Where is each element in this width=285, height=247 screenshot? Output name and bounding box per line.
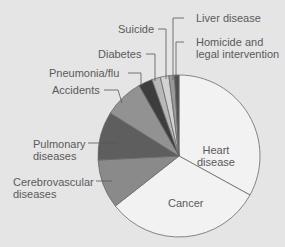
leader-line [173,18,184,80]
leader-line [128,73,141,86]
label-cerebrovascular-diseases: Cerebrovascular diseases [13,176,94,200]
label-pulmonary-diseases: Pulmonary diseases [33,138,86,162]
label-text: Cancer [168,197,203,209]
label-text: Accidents [52,84,100,96]
leader-line [146,54,155,81]
label-liver-disease: Liver disease [196,12,261,24]
label-homicide: Homicide and legal intervention [196,36,279,60]
label-text: legal intervention [196,48,279,60]
label-text: Diabetes [98,48,141,60]
label-text: diseases [33,150,76,162]
label-text: Homicide and [196,36,263,48]
label-heart-disease: Heart disease [197,144,235,168]
leader-line [176,42,184,80]
label-text: Liver disease [196,12,261,24]
label-accidents: Accidents [52,84,100,96]
leader-line [158,29,166,79]
label-text: Pulmonary [33,138,86,150]
label-cancer: Cancer [168,197,203,209]
label-text: Suicide [118,23,154,35]
label-diabetes: Diabetes [98,48,141,60]
label-text: Cerebrovascular [13,176,94,188]
pie-chart: Liver disease Homicide and legal interve… [0,0,285,247]
label-pneumonia-flu: Pneumonia/flu [49,67,119,79]
label-suicide: Suicide [118,23,154,35]
label-text: diseases [13,188,56,200]
label-text: Heart [203,144,230,156]
label-text: disease [197,156,235,168]
label-text: Pneumonia/flu [49,67,119,79]
